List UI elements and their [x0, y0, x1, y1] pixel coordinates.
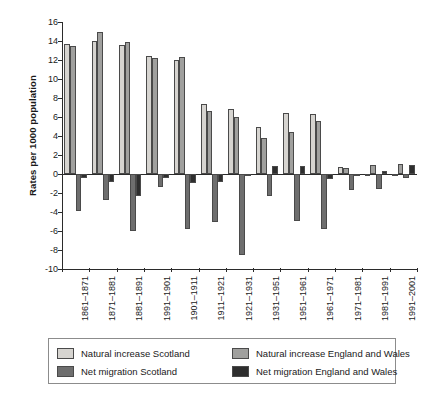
x-tick-mark [335, 268, 336, 272]
y-tick-label: -10 [28, 265, 58, 274]
bar [179, 57, 185, 174]
bar [97, 32, 103, 174]
x-tick-label: 1971–1981 [353, 276, 363, 321]
x-tick-label: 1871–1881 [107, 276, 117, 321]
x-tick-label: 1901–1911 [189, 276, 199, 320]
bar [398, 164, 404, 174]
x-tick-label: 1881–1891 [134, 276, 144, 321]
bar [163, 174, 169, 178]
bar [218, 174, 224, 182]
x-tick-mark [117, 268, 118, 272]
legend-label: Net migration England and Wales [256, 366, 397, 377]
bar-group [174, 22, 196, 269]
bar [365, 174, 371, 176]
x-tick-mark [308, 268, 309, 272]
bar [321, 174, 327, 229]
y-tick-label: 14 [28, 37, 58, 46]
legend-swatch-icon [57, 366, 74, 377]
legend-swatch-icon [57, 348, 74, 359]
y-tick-label: -6 [28, 227, 58, 236]
x-tick-label: 1921–1931 [244, 276, 254, 321]
bar [245, 174, 251, 176]
x-tick-label: 1981–1991 [380, 276, 390, 321]
x-tick-mark [362, 268, 363, 272]
bar [403, 174, 409, 178]
x-tick-mark [253, 268, 254, 272]
x-tick-mark [417, 268, 418, 272]
bar [152, 58, 158, 174]
y-tick-label: 0 [28, 170, 58, 179]
plot-area: 1614121086420-2-4-6-8-10 [62, 22, 417, 269]
x-tick-label: 1961–1971 [325, 276, 335, 321]
bar-chart: Rates per 1000 population 1614121086420-… [0, 0, 439, 402]
x-tick-mark [62, 268, 63, 272]
bar-group [64, 22, 86, 269]
x-tick-label: 1861–1871 [80, 276, 90, 321]
legend-item[interactable]: Net migration Scotland [57, 366, 232, 377]
x-tick-label: 1911–1921 [216, 276, 226, 320]
bar-group [119, 22, 141, 269]
y-tick-label: 2 [28, 151, 58, 160]
bar [349, 174, 355, 190]
bar [76, 174, 82, 211]
y-tick-label: 8 [28, 94, 58, 103]
y-tick-label: 10 [28, 75, 58, 84]
bar [300, 166, 306, 174]
bar [409, 165, 415, 175]
bar-group [310, 22, 332, 269]
bar-group [256, 22, 278, 269]
x-axis-line [62, 269, 417, 270]
y-tick-label: 4 [28, 132, 58, 141]
bar [382, 171, 388, 174]
bar [109, 174, 115, 182]
bar [234, 117, 240, 174]
bar [272, 166, 278, 174]
y-tick-label: -8 [28, 246, 58, 255]
x-tick-label: 1991–2001 [407, 276, 417, 321]
x-tick-mark [390, 268, 391, 272]
legend-item[interactable]: Net migration England and Wales [232, 366, 410, 377]
bar [261, 138, 267, 174]
y-tick-label: -4 [28, 208, 58, 217]
bar [289, 132, 295, 174]
bar-group [392, 22, 414, 269]
legend-label: Natural increase Scotland [81, 348, 190, 359]
x-tick-mark [280, 268, 281, 272]
bar [125, 42, 131, 174]
x-tick-mark [144, 268, 145, 272]
bar [239, 174, 245, 255]
bar [392, 174, 398, 176]
bar-group [92, 22, 114, 269]
legend-swatch-icon [232, 348, 249, 359]
x-tick-label: 1951–1961 [298, 276, 308, 321]
bar-group [146, 22, 168, 269]
y-tick-label: 16 [28, 18, 58, 27]
bar [370, 165, 376, 175]
bar-group [283, 22, 305, 269]
x-tick-mark [199, 268, 200, 272]
y-tick-label: -2 [28, 189, 58, 198]
bar [136, 174, 142, 196]
x-tick-mark [171, 268, 172, 272]
y-tick-label: 6 [28, 113, 58, 122]
bar-group [228, 22, 250, 269]
legend-item[interactable]: Natural increase England and Wales [232, 348, 410, 359]
legend-item[interactable]: Natural increase Scotland [57, 348, 232, 359]
x-axis-labels: 1861–18711871–18811881–18911991–19011901… [62, 272, 417, 334]
bar [70, 46, 76, 174]
bar-group [338, 22, 360, 269]
bar [327, 174, 333, 179]
bar-group [365, 22, 387, 269]
legend-label: Natural increase England and Wales [256, 348, 410, 359]
legend-label: Net migration Scotland [81, 366, 177, 377]
bar [81, 174, 87, 178]
bar [316, 121, 322, 174]
x-tick-mark [226, 268, 227, 272]
bar-group [201, 22, 223, 269]
legend: Natural increase ScotlandNatural increas… [48, 338, 396, 384]
bar [376, 174, 382, 189]
bar [294, 174, 300, 221]
bar [190, 174, 196, 183]
bar-groups [62, 22, 417, 269]
x-tick-label: 1931–1951 [271, 276, 281, 321]
